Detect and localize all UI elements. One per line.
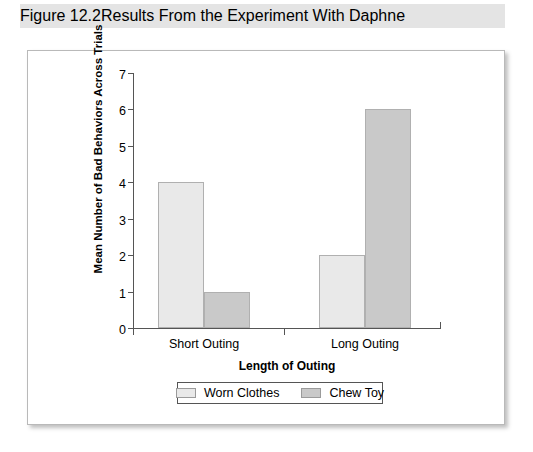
x-tick-label-long-outing: Long Outing <box>305 337 425 351</box>
bar-short-outing-chew-toy <box>204 292 250 328</box>
y-tick-mark-7 <box>128 73 133 74</box>
x-axis-mid-tick <box>284 329 285 335</box>
y-tick-label-0: 0 <box>106 324 126 337</box>
bar-chart: Mean Number of Bad Behaviors Across Tria… <box>28 51 504 424</box>
y-tick-label-7: 7 <box>106 69 126 82</box>
x-axis-title: Length of Outing <box>133 359 441 373</box>
y-tick-mark-0 <box>128 328 133 329</box>
y-tick-label-4: 4 <box>106 178 126 191</box>
x-axis-line <box>133 328 441 329</box>
y-tick-label-6: 6 <box>106 105 126 118</box>
x-axis-end-tick <box>440 322 441 328</box>
bar-long-outing-worn-clothes <box>319 255 365 328</box>
y-axis-title: Mean Number of Bad Behaviors Across Tria… <box>92 19 104 279</box>
legend-swatch-worn-clothes <box>176 388 196 398</box>
bar-long-outing-chew-toy <box>365 109 411 328</box>
y-tick-label-1: 1 <box>106 288 126 301</box>
bar-short-outing-worn-clothes <box>158 182 204 328</box>
y-axis-line <box>133 73 134 329</box>
legend-label-worn-clothes: Worn Clothes <box>204 386 280 400</box>
y-tick-mark-6 <box>128 109 133 110</box>
figure-number-label: Figure 12.2 <box>20 7 101 25</box>
y-tick-label-2: 2 <box>106 251 126 264</box>
y-tick-mark-5 <box>128 146 133 147</box>
y-tick-mark-3 <box>128 219 133 220</box>
y-tick-label-5: 5 <box>106 142 126 155</box>
chart-legend: Worn Clothes Chew Toy <box>177 382 383 404</box>
x-tick-label-short-outing: Short Outing <box>144 337 264 351</box>
legend-entry-chew-toy: Chew Toy <box>301 386 384 400</box>
y-tick-mark-2 <box>128 255 133 256</box>
figure-panel: Mean Number of Bad Behaviors Across Tria… <box>27 50 505 425</box>
y-tick-label-3: 3 <box>106 215 126 228</box>
figure-title: Results From the Experiment With Daphne <box>101 7 405 25</box>
y-tick-mark-4 <box>128 182 133 183</box>
y-tick-mark-1 <box>128 292 133 293</box>
legend-swatch-chew-toy <box>301 388 321 398</box>
x-axis-start-tick <box>133 329 134 335</box>
legend-entry-worn-clothes: Worn Clothes <box>176 386 280 400</box>
legend-label-chew-toy: Chew Toy <box>329 386 384 400</box>
